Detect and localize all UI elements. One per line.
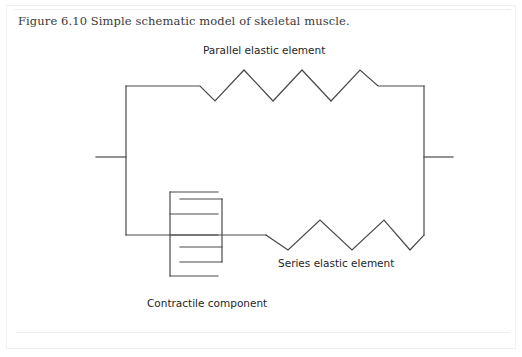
series-elastic-spring [266,220,424,250]
label-series-elastic-element: Series elastic element [278,257,394,270]
label-contractile-component: Contractile component [147,297,267,310]
parallel-elastic-spring [126,70,424,101]
figure-page: Figure 6.10 Simple schematic model of sk… [0,0,522,357]
figure-illustration: Parallel elastic element Series elastic … [0,0,522,357]
contractile-component-group [170,192,222,276]
label-parallel-elastic-element: Parallel elastic element [203,44,325,57]
